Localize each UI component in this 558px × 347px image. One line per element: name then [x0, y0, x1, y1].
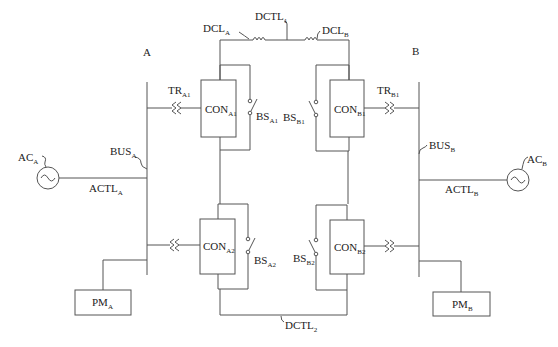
- area-b-label: B: [412, 45, 419, 57]
- dcl-a-label: DCLA: [203, 22, 230, 37]
- dcl-b-reactor-icon: [305, 38, 317, 41]
- area-a-label: A: [143, 46, 151, 58]
- dc-line-bottom: [220, 289, 347, 315]
- bs-a2-label: BSA2: [254, 254, 277, 269]
- tr-b1-label: TRB1: [377, 84, 400, 99]
- schematic-canvas: A B DCTL1 DCLA DCLB DCTL2 CONA1 BSA1: [0, 0, 558, 347]
- bus-b-label: BUSB: [429, 139, 455, 154]
- ac-a-label: ACA: [18, 151, 38, 166]
- bs-b1-label: BSB1: [283, 111, 305, 126]
- bus-a-label: BUSA: [110, 145, 136, 160]
- ac-b-label: ACB: [527, 153, 547, 168]
- tr-a1-label: TRA1: [168, 84, 191, 99]
- bs-b2-switch-icon: [309, 240, 315, 252]
- dcl-a-reactor-icon: [253, 38, 265, 41]
- dctl2-label: DCTL2: [285, 319, 318, 334]
- tr-b2-transformer-icon: [385, 240, 394, 252]
- bs-a1-label: BSA1: [256, 110, 279, 125]
- bus-a-group: [37, 82, 201, 315]
- bs-b2-label: BSB2: [293, 252, 315, 267]
- dctl1-label: DCTL1: [255, 10, 288, 25]
- actl-b-label: ACTLB: [445, 183, 479, 198]
- dcl-b-label: DCLB: [322, 24, 349, 39]
- tr-a1-transformer-icon: [172, 102, 181, 114]
- tr-a2-transformer-icon: [170, 239, 179, 251]
- actl-a-label: ACTLA: [89, 182, 123, 197]
- tr-b1-transformer-icon: [385, 102, 394, 114]
- bus-b-group: [364, 82, 529, 316]
